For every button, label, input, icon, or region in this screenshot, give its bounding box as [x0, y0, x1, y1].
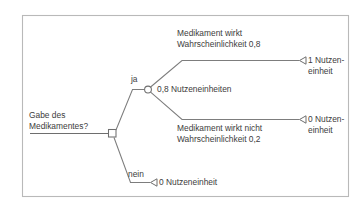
outcome-not-effective-probability: Wahrscheinlichkeit 0,2 [177, 134, 262, 145]
payoff-not-effective-line-2: einheit [308, 125, 344, 136]
outcome-effective-description: Medikament wirkt [177, 28, 260, 39]
payoff-effective-line-1: 1 Nutzen- [308, 55, 344, 66]
decision-tree-figure: Gabe des Medikamentes? ja nein 0,8 Nutze… [0, 0, 364, 211]
payoff-effective-line-2: einheit [308, 66, 344, 77]
decision-node-square [109, 130, 117, 138]
payoff-not-effective-line-1: 0 Nutzen- [308, 114, 344, 125]
outcome-effective-probability: Wahrscheinlichkeit 0,8 [177, 39, 260, 50]
root-label-line-1: Gabe des [29, 110, 88, 121]
outcome-not-effective-text: Medikament wirkt nicht Wahrscheinlichkei… [177, 123, 262, 144]
branch-yes-label: ja [131, 74, 138, 85]
payoff-not-effective: 0 Nutzen- einheit [308, 114, 344, 135]
outcome-effective-text: Medikament wirkt Wahrscheinlichkeit 0,8 [177, 28, 260, 49]
chance-node-circle [145, 86, 152, 93]
outcome-not-effective-description: Medikament wirkt nicht [177, 123, 262, 134]
payoff-no-treatment: 0 Nutzeneinheit [159, 177, 217, 188]
root-decision-label: Gabe des Medikamentes? [29, 110, 88, 132]
branch-no-label: nein [128, 169, 144, 180]
payoff-effective: 1 Nutzen- einheit [308, 55, 344, 76]
root-label-line-2: Medikamentes? [29, 121, 88, 132]
chance-node-expected-value: 0,8 Nutzeneinheiten [157, 84, 232, 95]
